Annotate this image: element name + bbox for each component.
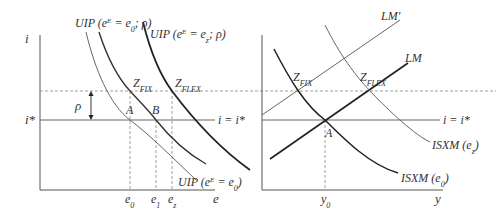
curve-uip-ez-rho	[143, 22, 250, 170]
tick-e1: e1	[151, 192, 160, 210]
point-a-right: A	[324, 126, 333, 140]
point-zflex-left: ZFLEX	[175, 76, 202, 94]
diagram-canvas: i i* ρ i = i* e UIP (eE = e0; ρ) UIP (eE…	[0, 0, 496, 215]
rho-arrow-head-up	[89, 91, 94, 96]
tick-ez: ez	[168, 192, 177, 210]
left-y-axis-label: i	[25, 31, 29, 46]
rho-arrow-head-down	[89, 115, 94, 120]
left-x-axis-label: e	[213, 191, 219, 206]
curve-lm	[270, 63, 408, 159]
label-lm-prime: LM′	[380, 9, 401, 23]
istar-label: i*	[25, 112, 36, 127]
label-isxm-e0: ISXM (e0)	[400, 171, 449, 189]
point-b-left: B	[152, 103, 160, 117]
right-iline-label: i = i*	[443, 113, 470, 127]
right-panel: LM′ LM i = i* ISXM (ez) ISXM (e0) A ZFIX…	[262, 9, 479, 210]
label-uip-ez-rho: UIP (eE = ez; ρ)	[150, 27, 226, 45]
curve-isxm-e0	[274, 49, 398, 173]
left-iline-label: i = i*	[218, 113, 245, 127]
curve-uip-e0	[86, 32, 196, 180]
rho-label: ρ	[74, 98, 81, 113]
point-zfix-right: ZFIX	[293, 70, 313, 88]
tick-y0: y0	[320, 192, 330, 210]
label-uip-e0-rho: UIP (eE = e0; ρ)	[75, 16, 152, 34]
tick-e0: e0	[125, 192, 134, 210]
point-a-left: A	[125, 103, 134, 117]
label-lm: LM	[404, 51, 423, 65]
label-isxm-ez: ISXM (ez)	[431, 138, 479, 156]
right-x-axis-label: y	[433, 191, 441, 206]
